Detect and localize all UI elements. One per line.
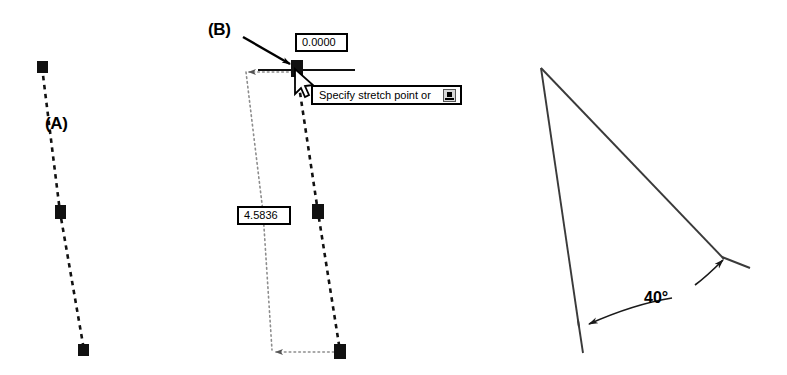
grip-b-bottom[interactable]	[334, 344, 346, 359]
grip-b-middle[interactable]	[312, 204, 324, 219]
leader-line-b	[243, 37, 290, 64]
drawing-layer: 40°	[0, 0, 787, 375]
angle-dimension-value: 40°	[644, 289, 668, 306]
grip-a-top[interactable]	[37, 61, 48, 73]
command-prompt-tooltip: Specify stretch point or	[311, 85, 462, 105]
angle-dimension-arc-upper	[695, 260, 723, 285]
expand-options-icon[interactable]	[443, 89, 456, 102]
dynamic-input-angle-field[interactable]: 0.0000	[295, 33, 348, 52]
panel-c-geometry: 40°	[541, 68, 750, 353]
command-prompt-text: Specify stretch point or	[319, 89, 431, 101]
dynamic-input-length-field[interactable]: 4.5836	[237, 206, 291, 225]
grip-a-bottom[interactable]	[78, 344, 89, 356]
figure-canvas: 40° (A) (B) 0.0000 4.5836 Specify stretc…	[0, 0, 787, 375]
panel-a-geometry	[37, 61, 89, 356]
callout-label-a: (A)	[45, 114, 68, 134]
triangle-hypotenuse-tail	[722, 257, 750, 268]
triangle-left-edge	[541, 68, 579, 327]
callout-label-b: (B)	[208, 20, 231, 40]
triangle-hypotenuse	[541, 68, 724, 259]
grip-a-middle[interactable]	[55, 205, 66, 219]
triangle-left-edge-tail	[578, 320, 583, 353]
